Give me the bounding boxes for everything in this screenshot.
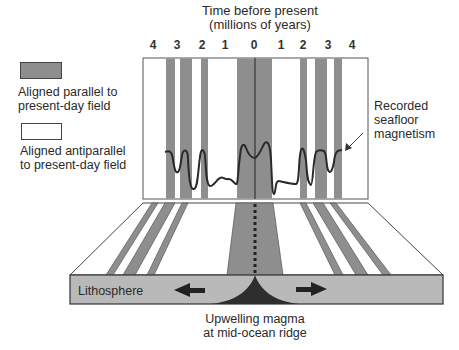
seafloor-diagram [0, 0, 459, 350]
annotation-line3: magnetism [374, 127, 435, 141]
lithosphere-label: Lithosphere [78, 284, 143, 298]
annotation-line1: Recorded [374, 99, 428, 113]
magma-label-line2: at mid-ocean ridge [180, 326, 330, 340]
annotation-line2: seafloor [374, 113, 418, 127]
magma-label-line1: Upwelling magma [180, 312, 330, 326]
